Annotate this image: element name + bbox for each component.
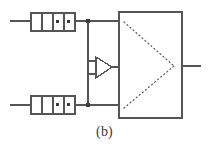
processing-block-group	[119, 12, 201, 118]
differential-amplifier-group	[88, 57, 119, 78]
amplifier-triangle-icon	[96, 57, 112, 78]
figure-container: (b)	[0, 0, 209, 153]
top-register-group	[10, 13, 119, 31]
bottom-junction-dot	[86, 103, 90, 107]
bottom-register-dot-1	[56, 103, 59, 106]
figure-caption: (b)	[0, 124, 209, 140]
bottom-register-dot-2	[67, 103, 70, 106]
top-junction-dot	[86, 19, 90, 23]
bottom-register-group	[10, 96, 119, 114]
top-register-dot-2	[67, 20, 70, 23]
top-register-dot-1	[56, 20, 59, 23]
